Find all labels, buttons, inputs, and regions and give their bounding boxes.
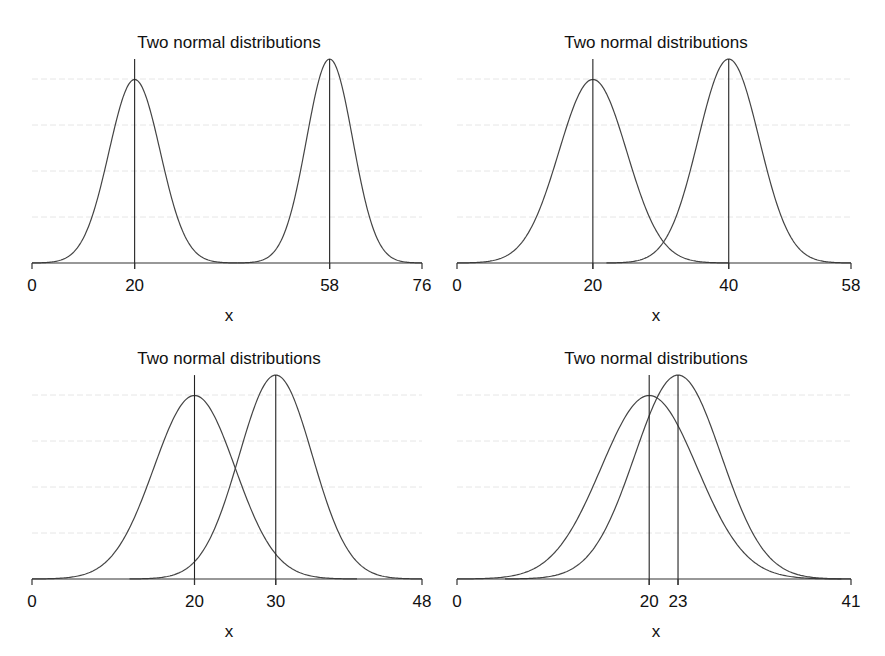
panel-title: Two normal distributions (137, 349, 320, 368)
density-curves (457, 59, 851, 263)
gridlines (32, 395, 422, 533)
x-axis-label: x (225, 622, 234, 641)
x-tick-label: 58 (842, 276, 861, 295)
x-tick-label: 20 (583, 276, 602, 295)
density-curves (32, 59, 422, 263)
x-axis (32, 263, 422, 269)
gridlines (457, 395, 851, 533)
x-tick-label: 58 (320, 276, 339, 295)
panel-bottom-right: Two normal distributions 0 20 23 41 x (452, 349, 860, 641)
x-tick-label: 30 (266, 592, 285, 611)
x-tick-label: 23 (669, 592, 688, 611)
x-tick-label: 0 (452, 592, 461, 611)
x-axis-label: x (652, 306, 661, 325)
mean-lines (195, 375, 276, 585)
mean-lines (135, 59, 330, 269)
figure: Two normal distributions 0 20 58 76 x Tw… (0, 0, 885, 656)
x-tick-label: 48 (413, 592, 432, 611)
gridlines (32, 79, 422, 217)
panel-bottom-left: Two normal distributions 0 20 30 48 x (27, 349, 431, 641)
panel-title: Two normal distributions (137, 33, 320, 52)
x-axis (32, 579, 422, 585)
x-tick-label: 0 (27, 276, 36, 295)
panel-title: Two normal distributions (564, 33, 747, 52)
x-axis (457, 579, 851, 585)
x-axis-label: x (225, 306, 234, 325)
gridlines (457, 79, 851, 217)
x-tick-label: 40 (719, 276, 738, 295)
density-curves (457, 375, 851, 579)
x-tick-label: 20 (125, 276, 144, 295)
x-tick-label: 41 (842, 592, 861, 611)
x-axis-label: x (652, 622, 661, 641)
panel-top-right: Two normal distributions 0 20 40 58 x (452, 33, 860, 325)
x-tick-label: 20 (640, 592, 659, 611)
x-tick-label: 76 (413, 276, 432, 295)
x-axis (457, 263, 851, 269)
x-tick-label: 20 (185, 592, 204, 611)
x-tick-label: 0 (27, 592, 36, 611)
x-tick-label: 0 (452, 276, 461, 295)
panel-top-left: Two normal distributions 0 20 58 76 x (27, 33, 431, 325)
density-curves (32, 375, 422, 579)
panel-title: Two normal distributions (564, 349, 747, 368)
